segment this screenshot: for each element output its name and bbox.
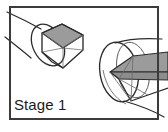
stage-diagram-canvas (0, 0, 168, 132)
figure-root: Stage 1 (0, 0, 168, 132)
